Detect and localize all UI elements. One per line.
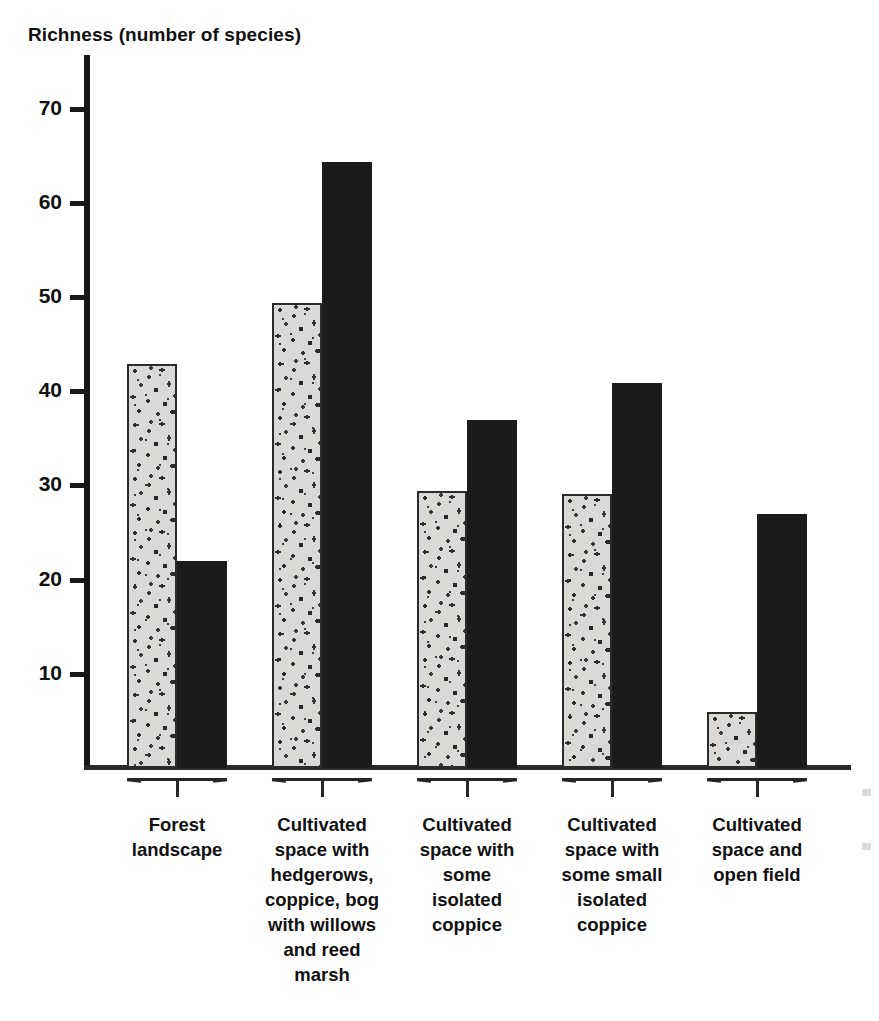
brace-stem — [611, 780, 614, 797]
category-label-cultivated-hedgerows: Cultivated space with hedgerows, coppice… — [250, 812, 394, 987]
category-label-cultivated-open-field: Cultivated space and open field — [687, 812, 827, 887]
category-label-forest-landscape: Forest landscape — [107, 812, 247, 862]
category-label-cultivated-small-isolated-coppice: Cultivated space with some small isolate… — [540, 812, 684, 937]
brace-tip-left — [127, 778, 141, 782]
bar-cultivated-isolated-coppice-stippled — [417, 491, 467, 768]
brace-tip-left — [417, 778, 431, 782]
bar-cultivated-small-isolated-coppice-stippled — [562, 494, 612, 768]
brace-tip-right — [213, 778, 227, 782]
bar-cultivated-small-isolated-coppice-solid — [612, 383, 662, 768]
brace-tip-right — [648, 778, 662, 782]
group-brace-1 — [127, 778, 227, 802]
brace-stem — [321, 780, 324, 797]
brace-tip-left — [707, 778, 721, 782]
scan-speck — [862, 843, 871, 850]
brace-tip-right — [793, 778, 807, 782]
bar-cultivated-hedgerows-stippled — [272, 303, 322, 768]
brace-tip-right — [503, 778, 517, 782]
group-brace-4 — [562, 778, 662, 802]
bar-cultivated-open-field-stippled — [707, 712, 757, 768]
bar-forest-landscape-stippled — [127, 364, 177, 768]
brace-stem — [466, 780, 469, 797]
brace-tip-left — [272, 778, 286, 782]
group-brace-2 — [272, 778, 372, 802]
bar-cultivated-open-field-solid — [757, 514, 807, 768]
bar-cultivated-hedgerows-solid — [322, 162, 372, 768]
category-label-cultivated-isolated-coppice: Cultivated space with some isolated copp… — [397, 812, 537, 937]
brace-stem — [756, 780, 759, 797]
group-brace-5 — [707, 778, 807, 802]
brace-tip-right — [358, 778, 372, 782]
group-brace-3 — [417, 778, 517, 802]
bar-cultivated-isolated-coppice-solid — [467, 420, 517, 768]
plot-area: 70 60 50 40 30 20 10 — [0, 0, 879, 790]
bars-layer — [0, 0, 879, 768]
scan-speck — [862, 789, 871, 796]
brace-tip-left — [562, 778, 576, 782]
richness-bar-chart: Richness (number of species) 70 60 50 40… — [0, 0, 879, 1021]
bar-forest-landscape-solid — [177, 561, 227, 768]
brace-stem — [176, 780, 179, 797]
